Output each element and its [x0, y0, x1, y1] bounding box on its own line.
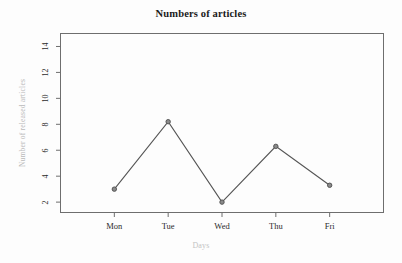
y-tick-label: 8: [40, 116, 49, 132]
data-point-markers: [112, 120, 332, 205]
y-tick-label: 4: [40, 168, 49, 184]
x-tick-label: Thu: [256, 221, 296, 231]
series-polyline: [114, 122, 329, 202]
y-tick-label: 12: [40, 64, 49, 80]
data-point-marker: [220, 200, 224, 204]
data-point-marker: [112, 187, 116, 191]
x-tick-label: Mon: [94, 221, 134, 231]
data-series-line: [114, 122, 329, 202]
y-axis-title: Number of released articles: [18, 79, 27, 167]
x-tick-label: Wed: [202, 221, 242, 231]
x-tick-label: Fri: [310, 221, 350, 231]
y-tick-label: 10: [40, 90, 49, 106]
data-point-marker: [274, 144, 278, 148]
x-tick-label: Tue: [148, 221, 188, 231]
y-tick-label: 6: [40, 142, 49, 158]
axis-ticks: [56, 46, 330, 217]
y-tick-label: 14: [40, 38, 49, 54]
x-axis-title: Days: [0, 241, 402, 250]
chart-container: Numbers of articles 2468101214 MonTueWed…: [0, 0, 402, 263]
plot-frame: [61, 34, 384, 213]
y-tick-label: 2: [40, 194, 49, 210]
data-point-marker: [166, 120, 170, 124]
data-point-marker: [327, 183, 331, 187]
